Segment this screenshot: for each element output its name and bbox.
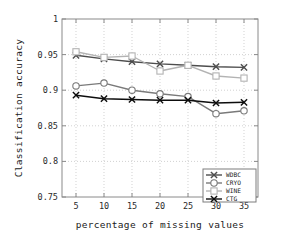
chart-figure: 0.750.80.850.90.951 5101520253035 percen… xyxy=(0,0,290,241)
y-axis-title: Classification accuracy xyxy=(13,39,24,177)
y-tick-label: 0.9 xyxy=(43,85,58,95)
circle-marker xyxy=(241,108,247,114)
x-tick-label: 20 xyxy=(155,201,165,211)
y-tick-label: 0.85 xyxy=(38,121,58,131)
square-marker xyxy=(129,53,135,59)
square-marker xyxy=(213,73,219,79)
x-tick-label: 5 xyxy=(73,201,78,211)
square-marker xyxy=(157,68,163,74)
y-tick-label: 1 xyxy=(53,14,58,24)
square-marker xyxy=(101,54,107,60)
y-axis-tick-labels: 0.750.80.850.90.951 xyxy=(38,14,58,202)
square-marker xyxy=(211,188,217,194)
square-marker xyxy=(185,62,191,68)
circle-marker xyxy=(157,91,163,97)
circle-marker xyxy=(101,80,107,86)
legend-label: WINE xyxy=(226,187,241,194)
chart-svg: 0.750.80.850.90.951 5101520253035 percen… xyxy=(0,0,290,241)
x-tick-label: 10 xyxy=(99,201,109,211)
circle-marker xyxy=(213,111,219,117)
y-tick-label: 0.95 xyxy=(38,50,58,60)
chart-legend[interactable]: WDBCCRYOWINECTG xyxy=(203,169,256,202)
x-tick-label: 25 xyxy=(183,201,193,211)
legend-label: CRYO xyxy=(226,179,241,186)
circle-marker xyxy=(73,83,79,89)
y-tick-label: 0.75 xyxy=(38,192,58,202)
legend-label: WDBC xyxy=(226,171,241,178)
circle-marker xyxy=(211,180,217,186)
square-marker xyxy=(73,49,79,55)
circle-marker xyxy=(129,87,135,93)
y-tick-label: 0.8 xyxy=(43,156,58,166)
x-axis-title: percentage of missing values xyxy=(76,219,245,230)
square-marker xyxy=(241,75,247,81)
legend-label: CTG xyxy=(226,195,237,202)
x-tick-label: 15 xyxy=(127,201,137,211)
